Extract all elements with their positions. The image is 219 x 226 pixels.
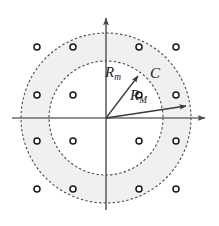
inner-radius-label: Rm <box>105 65 121 82</box>
lattice-point <box>173 186 179 192</box>
inner-radius-label-subscript: m <box>114 72 121 82</box>
lattice-point <box>70 186 76 192</box>
lattice-point <box>70 92 76 98</box>
lattice-point <box>136 44 142 50</box>
lattice-point <box>173 92 179 98</box>
lattice-point <box>70 138 76 144</box>
lattice-point <box>34 92 40 98</box>
lattice-point <box>34 138 40 144</box>
lattice-point <box>136 138 142 144</box>
region-label-base: C <box>150 65 160 81</box>
lattice-point <box>34 44 40 50</box>
figure-container: Rm RM C <box>0 0 219 226</box>
lattice-point <box>136 186 142 192</box>
lattice-point <box>173 138 179 144</box>
inner-radius-label-base: R <box>105 64 114 80</box>
outer-radius-label: RM <box>130 88 147 105</box>
lattice-point <box>173 44 179 50</box>
lattice-point <box>70 44 76 50</box>
region-label: C <box>150 66 160 81</box>
lattice-point <box>34 186 40 192</box>
annulus-diagram <box>0 0 219 226</box>
outer-radius-label-base: R <box>130 87 139 103</box>
outer-radius-label-subscript: M <box>139 95 147 105</box>
